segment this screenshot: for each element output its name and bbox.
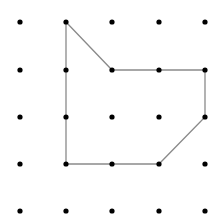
grid-dot	[156, 19, 161, 24]
grid-dot	[17, 67, 22, 72]
grid-dot	[63, 114, 68, 119]
grid-dot	[202, 114, 207, 119]
grid-dot	[17, 114, 22, 119]
grid-dot	[202, 67, 207, 72]
grid-dot	[63, 19, 68, 24]
grid-dot	[63, 208, 68, 213]
grid-dot	[156, 67, 161, 72]
grid-dot	[109, 208, 114, 213]
grid-dot	[17, 161, 22, 166]
grid-dot	[156, 208, 161, 213]
grid-dot	[156, 161, 161, 166]
grid-dot	[109, 67, 114, 72]
grid-dot	[202, 19, 207, 24]
polygon-shape	[66, 22, 205, 164]
grid-dot	[63, 67, 68, 72]
dot-grid-diagram	[0, 0, 219, 218]
grid-dot	[109, 114, 114, 119]
polygon-outline	[66, 22, 205, 164]
grid-dot	[202, 161, 207, 166]
grid-dot	[17, 208, 22, 213]
grid-dot	[156, 114, 161, 119]
grid-dot	[63, 161, 68, 166]
grid-dot	[17, 19, 22, 24]
grid-dot	[109, 19, 114, 24]
grid-dot	[109, 161, 114, 166]
grid-dots	[17, 19, 207, 213]
grid-dot	[202, 208, 207, 213]
